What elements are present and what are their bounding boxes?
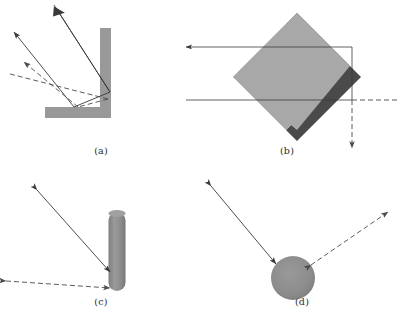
prism-body xyxy=(233,13,350,130)
dashed-ray-d xyxy=(311,212,388,265)
panel-d-sphere: (d) xyxy=(200,165,404,323)
solid-ray-path-a xyxy=(14,3,110,107)
panel-c-cylinder: (c) xyxy=(0,165,202,323)
sphere-shape xyxy=(271,256,315,300)
solid-ray-c xyxy=(37,190,110,272)
dashed-ray-exit-b xyxy=(352,100,399,148)
panel-c-caption: (c) xyxy=(0,296,202,307)
panel-b-corner-prism: (b) xyxy=(170,0,404,165)
cylinder-shape xyxy=(109,210,126,291)
figure-container: (a) xyxy=(0,0,404,323)
dashed-ray-c xyxy=(6,281,110,288)
dashed-ray-path-a xyxy=(10,62,108,107)
panel-b-caption: (b) xyxy=(170,145,404,156)
solid-ray-d xyxy=(211,186,276,264)
panel-d-caption: (d) xyxy=(200,296,404,307)
